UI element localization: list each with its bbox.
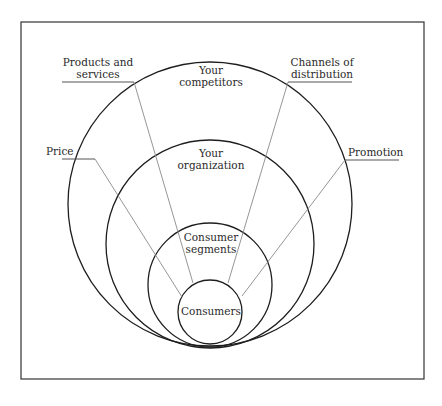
label-organization-line2: organization — [178, 159, 245, 171]
spoke-products — [134, 82, 193, 283]
label-price: Price — [46, 145, 74, 157]
label-competitors-line2: competitors — [179, 76, 243, 88]
label-products-line2: services — [76, 68, 119, 80]
label-segments-line2: segments — [186, 243, 237, 255]
label-channels-line2: distribution — [291, 68, 353, 80]
label-segments-line1: Consumer — [184, 231, 239, 243]
spoke-promotion — [242, 160, 345, 296]
label-channels-line1: Channels of — [290, 56, 354, 68]
spoke-price — [95, 159, 182, 297]
spoke-channels — [228, 82, 288, 283]
ring-competitors — [68, 62, 352, 346]
label-organization-line1: Your — [198, 147, 224, 159]
label-competitors-line1: Your — [198, 64, 224, 76]
label-promotion: Promotion — [348, 146, 404, 158]
label-consumers: Consumers — [181, 305, 241, 317]
marketing-environment-diagram: Your competitors Your organization Consu… — [0, 0, 442, 406]
label-products-line1: Products and — [63, 56, 134, 68]
